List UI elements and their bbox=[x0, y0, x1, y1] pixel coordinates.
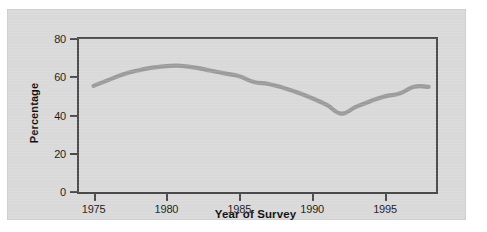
x-tick-mark bbox=[94, 193, 96, 201]
x-tick-label: 1985 bbox=[227, 203, 251, 215]
y-tick-label: 80 bbox=[54, 33, 66, 45]
y-tick-label: 40 bbox=[54, 110, 66, 122]
y-tick-mark bbox=[70, 191, 79, 193]
x-tick-label: 1995 bbox=[373, 203, 397, 215]
y-tick-label: 20 bbox=[54, 148, 66, 160]
figure-root: Percentage Year of Survey 020406080 1975… bbox=[0, 0, 487, 232]
y-tick-mark bbox=[70, 115, 79, 117]
x-tick-label: 1980 bbox=[155, 203, 179, 215]
plot-area: 020406080 19751980198519901995 bbox=[77, 37, 438, 194]
y-axis-title: Percentage bbox=[28, 83, 40, 143]
x-tick-mark bbox=[239, 193, 241, 201]
y-tick-label: 60 bbox=[54, 71, 66, 83]
series-plot bbox=[79, 39, 436, 192]
y-tick-mark bbox=[70, 76, 79, 78]
x-tick-label: 1990 bbox=[300, 203, 324, 215]
y-tick-mark bbox=[70, 38, 79, 40]
y-tick-mark bbox=[70, 153, 79, 155]
x-tick-mark bbox=[385, 193, 387, 201]
y-tick-label: 0 bbox=[60, 186, 66, 198]
x-tick-mark bbox=[312, 193, 314, 201]
series-line-percentage bbox=[94, 66, 429, 114]
x-tick-mark bbox=[166, 193, 168, 201]
x-tick-label: 1975 bbox=[82, 203, 106, 215]
chart-panel: Percentage Year of Survey 020406080 1975… bbox=[8, 10, 465, 219]
